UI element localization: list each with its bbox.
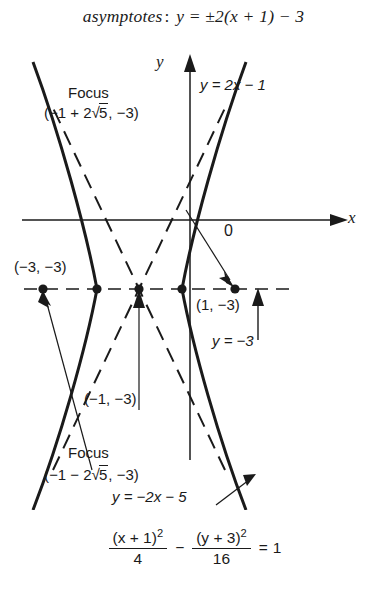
- vertex-left-point: [92, 284, 101, 293]
- asymptote-negative-label: y = −2x − 5: [112, 488, 187, 505]
- focus-bottom-title: Focus: [68, 444, 109, 461]
- transverse-axis-label: y = −3: [212, 332, 254, 349]
- numerator-right-exponent: 2: [241, 527, 247, 539]
- vertex-left-label: (−3, −3): [14, 258, 67, 275]
- asymptotes-equation: y = ±2(x + 1) − 3: [176, 6, 304, 26]
- vertex-right-point: [177, 284, 186, 293]
- focus-bottom-coordinates: (−1 − 2√5, −3): [44, 466, 139, 484]
- numerator-right-text: (y + 3): [196, 529, 240, 546]
- fraction-right-numerator: (y + 3)2: [192, 527, 251, 549]
- fraction-left: (x + 1)2 4: [109, 527, 168, 568]
- equation-equals: =: [259, 539, 268, 557]
- fraction-right-denominator: 16: [209, 549, 234, 568]
- asymptotes-colon: :: [163, 6, 172, 26]
- focus-top-coordinates: (−1 + 2√5, −3): [44, 104, 139, 122]
- y-axis-label: y: [156, 52, 164, 72]
- equation-result: 1: [273, 539, 282, 557]
- focus-top-title: Focus: [68, 84, 109, 101]
- equation-operator: −: [175, 539, 184, 557]
- numerator-left-text: (x + 1): [113, 529, 157, 546]
- hyperbola-figure: asymptotes: y = ±2(x + 1) − 3: [0, 0, 387, 592]
- asymptote-positive-label: y = 2x − 1: [200, 76, 266, 93]
- vertex-right-label: (1, −3): [196, 296, 240, 313]
- fraction-left-numerator: (x + 1)2: [109, 527, 168, 549]
- asymptotes-statement: asymptotes: y = ±2(x + 1) − 3: [0, 6, 387, 27]
- origin-label: 0: [224, 222, 233, 240]
- hyperbola-equation: (x + 1)2 4 − (y + 3)2 16 = 1: [0, 527, 387, 568]
- asymptotes-word: asymptotes: [83, 6, 163, 26]
- x-axis: [22, 214, 348, 226]
- center-label: (−1, −3): [84, 390, 137, 407]
- numerator-left-exponent: 2: [157, 527, 163, 539]
- x-axis-label: x: [348, 208, 356, 228]
- fraction-left-denominator: 4: [130, 549, 147, 568]
- fraction-right: (y + 3)2 16: [192, 527, 251, 568]
